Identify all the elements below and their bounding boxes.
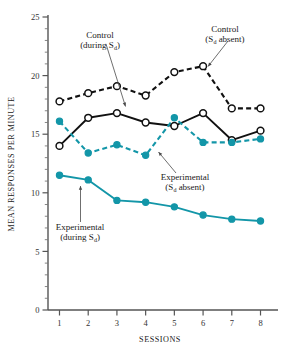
data-point — [171, 204, 177, 210]
leader-line — [106, 44, 126, 107]
axes — [48, 15, 278, 310]
data-point — [56, 172, 62, 178]
data-point — [228, 105, 235, 112]
annotation-line1: Control — [211, 24, 239, 34]
data-series — [56, 63, 264, 224]
annotation-line2: (during Sd) — [60, 232, 100, 243]
leader-arrowhead — [123, 102, 126, 106]
data-point — [114, 142, 120, 148]
x-tick-label: 2 — [86, 318, 90, 328]
x-tick-label: 7 — [230, 318, 234, 328]
y-tick-label: 25 — [31, 12, 40, 22]
y-tick-label: 15 — [31, 129, 40, 139]
annotation-line2: (during Sd) — [80, 40, 120, 51]
annotation-line2: (Sd absent) — [205, 34, 244, 45]
data-point — [229, 139, 235, 145]
data-point — [171, 69, 178, 76]
annotation-labels: Control(during Sd)Control(Sd absent)Expe… — [56, 24, 245, 243]
annotation-line1: Control — [86, 30, 114, 40]
y-axis-title: MEAN RESPONSES PER MINUTE — [7, 96, 16, 231]
y-tick-label: 0 — [35, 305, 39, 315]
annotation-line2: (Sd absent) — [165, 182, 204, 193]
data-point — [143, 199, 149, 205]
axis-tick-labels: 051015202512345678 — [31, 12, 263, 327]
x-tick-label: 8 — [258, 318, 262, 328]
chart-figure: 051015202512345678 Control(during Sd)Con… — [0, 0, 290, 351]
leader-arrowhead — [79, 186, 82, 190]
data-point — [200, 63, 207, 70]
data-point — [200, 139, 206, 145]
data-point — [143, 152, 149, 158]
y-tick-label: 10 — [31, 188, 40, 198]
data-point — [200, 110, 207, 117]
line-chart: 051015202512345678 Control(during Sd)Con… — [0, 0, 290, 351]
data-point — [56, 98, 63, 105]
data-point — [257, 105, 264, 112]
data-point — [200, 212, 206, 218]
data-point — [257, 127, 264, 134]
series-line-0 — [59, 66, 260, 108]
x-tick-label: 5 — [172, 318, 176, 328]
data-point — [114, 110, 121, 117]
data-point — [257, 218, 263, 224]
data-point — [229, 216, 235, 222]
leader-line — [208, 41, 228, 67]
x-axis-title: SESSIONS — [139, 335, 181, 344]
annotation-line1: Experimental — [161, 172, 210, 182]
x-tick-label: 1 — [57, 318, 61, 328]
annotation-line1: Experimental — [56, 222, 105, 232]
data-point — [56, 118, 62, 124]
data-point — [85, 90, 92, 97]
x-tick-label: 6 — [201, 318, 205, 328]
y-tick-label: 20 — [31, 71, 40, 81]
data-point — [56, 143, 63, 150]
data-point — [85, 114, 92, 121]
data-point — [171, 123, 178, 130]
data-point — [171, 115, 177, 121]
x-tick-label: 4 — [144, 318, 149, 328]
data-point — [142, 92, 149, 99]
data-point — [142, 119, 149, 126]
axis-ticks — [43, 17, 261, 316]
y-tick-label: 5 — [35, 247, 39, 257]
data-point — [85, 177, 91, 183]
x-tick-label: 3 — [115, 318, 119, 328]
leader-line — [159, 152, 177, 173]
data-point — [85, 150, 91, 156]
data-point — [114, 197, 120, 203]
data-point — [257, 136, 263, 142]
